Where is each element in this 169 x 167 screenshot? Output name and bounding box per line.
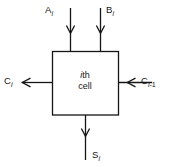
signal-label-carry-in-base: C xyxy=(141,75,148,86)
cell-index-suffix: th xyxy=(82,70,90,80)
cell-box-label-line2: cell xyxy=(52,81,118,92)
signal-label-sum-out-subscript: i xyxy=(98,155,100,162)
signal-label-carry-in-subscript: i-1 xyxy=(148,81,156,88)
signal-label-carry-in: Ci-1 xyxy=(141,76,156,88)
signal-label-input-a: Ai xyxy=(45,5,53,17)
signal-label-carry-out: Ci xyxy=(4,76,13,88)
signal-label-carry-out-base: C xyxy=(4,75,11,86)
cell-box-label-line1: ith xyxy=(52,70,118,81)
signal-label-sum-out: Si xyxy=(92,150,100,162)
signal-label-carry-out-subscript: i xyxy=(11,81,13,88)
signal-label-input-b: Bi xyxy=(106,5,114,17)
cell-box-label: ith cell xyxy=(52,70,118,92)
signal-label-input-b-subscript: i xyxy=(112,10,114,17)
signal-label-input-a-subscript: i xyxy=(51,10,53,17)
block-diagram: ith cell Ai Bi Ci Ci-1 Si xyxy=(0,0,169,167)
